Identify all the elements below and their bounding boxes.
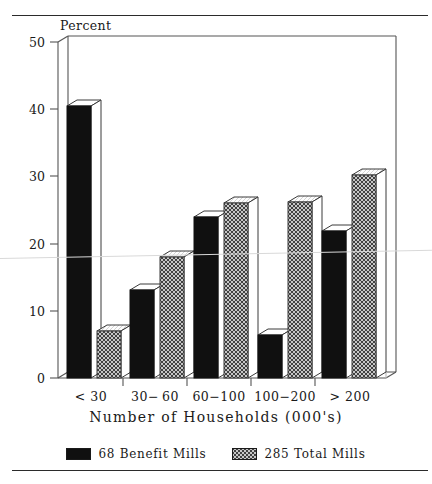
bar-total-mills-2 bbox=[160, 251, 194, 378]
bar-benefit-mills-5 bbox=[322, 225, 356, 378]
x-axis-tick-labels: < 30 30− 60 60−100 100−200 > 200 bbox=[75, 389, 371, 404]
bar-group-100-200 bbox=[258, 196, 322, 378]
bar-group-60-100 bbox=[194, 197, 258, 378]
x-tick-label: 60−100 bbox=[192, 389, 245, 404]
y-tick-label: 40 bbox=[29, 102, 45, 117]
legend-label: 285 Total Mills bbox=[264, 447, 365, 461]
legend-swatch-hatched-icon bbox=[232, 448, 257, 460]
bar-benefit-mills-4 bbox=[258, 329, 292, 378]
bottom-rule bbox=[12, 470, 428, 471]
y-tick-label: 20 bbox=[29, 237, 45, 252]
y-axis-ticks bbox=[50, 42, 58, 378]
y-tick-label: 10 bbox=[29, 304, 45, 319]
y-tick-label: 30 bbox=[29, 169, 45, 184]
bar-group-gt200 bbox=[322, 169, 386, 378]
y-axis-tick-labels: 50 40 30 20 10 0 bbox=[29, 35, 45, 386]
y-tick-label: 50 bbox=[29, 35, 45, 50]
bar-total-mills-1 bbox=[97, 325, 131, 378]
y-tick-label: 0 bbox=[37, 371, 45, 386]
bar-group-30-60 bbox=[130, 251, 194, 378]
bar-group-lt30 bbox=[67, 100, 131, 378]
bar-total-mills-5 bbox=[352, 169, 386, 378]
x-tick-label: > 200 bbox=[330, 389, 371, 404]
x-tick-label: < 30 bbox=[75, 389, 107, 404]
x-tick-label: 30− 60 bbox=[131, 389, 179, 404]
chart-legend: 68 Benefit Mills 285 Total Mills bbox=[0, 447, 432, 461]
legend-entry-benefit-mills: 68 Benefit Mills bbox=[66, 447, 206, 461]
x-axis-title: Number of Households (000's) bbox=[0, 409, 432, 425]
bar-benefit-mills-1 bbox=[67, 100, 101, 378]
bar-benefit-mills-3 bbox=[194, 211, 228, 378]
figure-container: Percent bbox=[0, 0, 432, 484]
x-axis-ticks bbox=[123, 378, 315, 386]
x-tick-label: 100−200 bbox=[254, 389, 316, 404]
legend-entry-total-mills: 285 Total Mills bbox=[232, 447, 365, 461]
bar-total-mills-3 bbox=[224, 197, 258, 378]
bar-benefit-mills-2 bbox=[130, 284, 164, 378]
bar-total-mills-4 bbox=[288, 196, 322, 378]
legend-swatch-solid-icon bbox=[66, 448, 91, 460]
bar-chart-plot: 50 40 30 20 10 0 bbox=[0, 0, 432, 410]
legend-label: 68 Benefit Mills bbox=[98, 447, 206, 461]
